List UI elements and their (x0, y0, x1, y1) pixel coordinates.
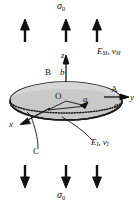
semi-axis-b-label: b (60, 68, 65, 77)
stress-arrow-down-2 (62, 165, 71, 188)
point-a-label: A (111, 85, 118, 94)
top-stress-arrows (21, 19, 102, 42)
stress-arrow-up-3 (93, 19, 102, 42)
sigma-subscript-bottom: 0 (62, 194, 65, 201)
stress-arrow-down-1 (21, 165, 30, 188)
y-axis-label: y (130, 93, 134, 102)
inclusion-poisson-subscript: I (107, 141, 109, 147)
origin-label: O (55, 92, 62, 101)
point-c-label: C (33, 147, 39, 156)
spheroid-inclusion-figure (0, 0, 140, 207)
leader-line-point-c (31, 116, 38, 148)
stress-arrow-up-2 (62, 19, 71, 42)
stress-arrow-up-1 (21, 19, 30, 42)
matrix-separator: , (107, 46, 109, 56)
stress-arrow-down-3 (93, 165, 102, 188)
z-axis-label: z (61, 51, 65, 60)
stress-label-bottom: σ0 (57, 190, 65, 201)
matrix-properties-label: EM, vM (97, 47, 120, 57)
x-axis-label: x (9, 120, 13, 129)
bottom-stress-arrows (21, 165, 102, 188)
inclusion-properties-label: EI, vI (91, 138, 109, 148)
stress-label-top: σ0 (57, 1, 65, 12)
semi-axis-a-outer-label: a (114, 101, 119, 110)
inclusion-separator: , (98, 137, 100, 147)
sigma-subscript-top: 0 (62, 5, 65, 12)
matrix-poisson-subscript: M (116, 50, 121, 56)
semi-axis-a-inner-label: a (83, 95, 88, 104)
point-b-label: B (45, 68, 51, 77)
